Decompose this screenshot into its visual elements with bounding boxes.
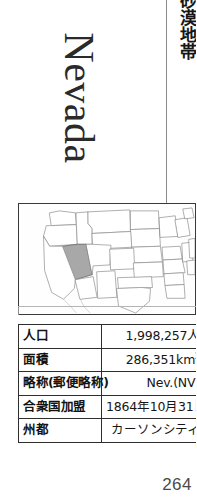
column-divider-rule [166,0,167,204]
page-title: Nevada [44,8,114,188]
fact-key-statehood: 合衆国加盟 [19,395,102,419]
table-row: 略称(郵便略称) Nev.(NV) [19,372,197,396]
page-number: 264 [162,475,192,495]
fact-key-area: 面積 [19,348,102,372]
table-row: 人口 1,998,257人 [19,325,197,349]
table-row: 州都 カーソンシティ [19,419,197,443]
fact-value-capital: カーソンシティ [102,419,197,443]
fact-value-statehood: 1864年10月31日 [102,395,197,419]
fact-value-area: 286,351km2 [102,348,197,372]
state-fact-table: 人口 1,998,257人 面積 286,351km2 略称(郵便略称) Nev… [18,324,196,443]
fact-value-population: 1,998,257人 [102,325,197,349]
state-name-title: Nevada [55,32,103,163]
fact-key-capital: 州都 [19,419,102,443]
vertical-japanese-caption: 砂漠地帯 [171,0,195,60]
fact-key-population: 人口 [19,325,102,349]
united-states-map-icon [19,204,195,314]
map-panel [18,203,196,315]
fact-key-abbreviation: 略称(郵便略称) [19,372,102,396]
table-row: 合衆国加盟 1864年10月31日 [19,395,197,419]
fact-value-abbreviation: Nev.(NV) [102,372,197,396]
fact-value-area-superscript: 2 [195,351,196,360]
table-row: 面積 286,351km2 [19,348,197,372]
fact-value-area-number: 286,351km [126,352,195,367]
